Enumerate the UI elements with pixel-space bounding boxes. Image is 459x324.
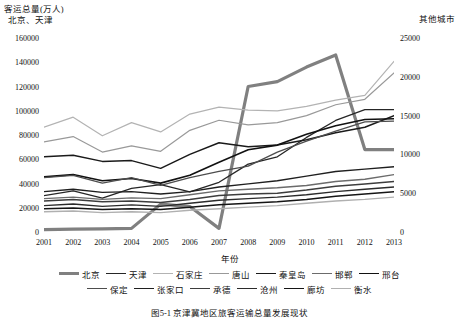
- y-tick-left: 80000: [0, 131, 39, 140]
- x-tick: 2010: [299, 238, 315, 247]
- legend-item-邯郸[interactable]: 邯郸: [312, 268, 353, 280]
- legend-item-承德[interactable]: 承德: [190, 283, 231, 295]
- legend-label: 承德: [213, 283, 231, 295]
- legend-label: 北京: [82, 268, 100, 280]
- x-tick: 2004: [124, 238, 140, 247]
- x-tick: 2003: [94, 238, 110, 247]
- series-line: [44, 73, 394, 152]
- legend-item-保定[interactable]: 保定: [87, 283, 128, 295]
- legend-label: 保定: [110, 283, 128, 295]
- series-line: [44, 110, 394, 199]
- legend-label: 唐山: [232, 268, 250, 280]
- y-tick-right: 10000: [400, 150, 420, 159]
- chart-legend: 北京天津石家庄唐山秦皇岛邯郸邢台保定张家口承德沧州廊坊衡水: [0, 266, 459, 296]
- legend-swatch-icon: [359, 273, 379, 274]
- x-tick: 2001: [36, 238, 52, 247]
- legend-item-廊坊[interactable]: 廊坊: [284, 283, 325, 295]
- y-tick-right: 5000: [400, 189, 416, 198]
- y-tick-left: 60000: [0, 155, 39, 164]
- figure-container: 客运总量(万人) 北京、天津 其他城市 02000040000600008000…: [0, 0, 459, 324]
- left-axis-title: 客运总量(万人) 北京、天津: [4, 4, 64, 25]
- legend-swatch-icon: [190, 288, 210, 289]
- legend-swatch-icon: [59, 272, 79, 275]
- series-line: [44, 116, 394, 169]
- legend-label: 邯郸: [335, 268, 353, 280]
- legend-swatch-icon: [256, 273, 276, 274]
- x-tick: 2007: [211, 238, 227, 247]
- legend-item-张家口[interactable]: 张家口: [134, 283, 184, 295]
- y-tick-left: 120000: [0, 82, 39, 91]
- line-chart-svg: [44, 38, 394, 232]
- x-axis-title: 年份: [0, 252, 459, 264]
- legend-swatch-icon: [331, 288, 351, 289]
- legend-item-石家庄[interactable]: 石家庄: [153, 268, 203, 280]
- legend-label: 张家口: [157, 283, 184, 295]
- figure-caption: 图5-1 京津冀地区旅客运输总量发展现状: [0, 306, 459, 318]
- legend-label: 邢台: [382, 268, 400, 280]
- legend-swatch-icon: [87, 288, 107, 289]
- legend-item-沧州[interactable]: 沧州: [237, 283, 278, 295]
- legend-label: 沧州: [260, 283, 278, 295]
- y-tick-right: 15000: [400, 111, 420, 120]
- legend-label: 石家庄: [176, 268, 203, 280]
- x-tick: 2006: [182, 238, 198, 247]
- y-tick-left: 40000: [0, 179, 39, 188]
- legend-item-秦皇岛[interactable]: 秦皇岛: [256, 268, 306, 280]
- legend-swatch-icon: [284, 288, 304, 289]
- y-tick-left: 160000: [0, 34, 39, 43]
- legend-label: 秦皇岛: [279, 268, 306, 280]
- x-tick: 2009: [269, 238, 285, 247]
- x-tick: 2008: [240, 238, 256, 247]
- x-tick: 2013: [386, 238, 402, 247]
- series-line: [44, 119, 394, 183]
- y-tick-right: 0: [400, 228, 404, 237]
- plot-area: [44, 38, 394, 232]
- y-tick-left: 140000: [0, 58, 39, 67]
- legend-item-天津[interactable]: 天津: [106, 268, 147, 280]
- series-line: [44, 121, 394, 185]
- legend-row: 保定张家口承德沧州廊坊衡水: [0, 281, 459, 296]
- legend-item-衡水[interactable]: 衡水: [331, 283, 372, 295]
- y-tick-left: 0: [0, 228, 39, 237]
- legend-item-邢台[interactable]: 邢台: [359, 268, 400, 280]
- legend-row: 北京天津石家庄唐山秦皇岛邯郸邢台: [0, 266, 459, 281]
- legend-label: 衡水: [354, 283, 372, 295]
- x-tick: 2002: [65, 238, 81, 247]
- right-axis-title: 其他城市: [419, 14, 455, 25]
- legend-label: 天津: [129, 268, 147, 280]
- y-tick-left: 20000: [0, 203, 39, 212]
- legend-item-唐山[interactable]: 唐山: [209, 268, 250, 280]
- y-tick-right: 20000: [400, 72, 420, 81]
- y-tick-right: 25000: [400, 34, 420, 43]
- y-tick-left: 100000: [0, 106, 39, 115]
- legend-swatch-icon: [153, 273, 173, 274]
- legend-swatch-icon: [209, 273, 229, 274]
- legend-swatch-icon: [106, 273, 126, 274]
- x-tick: 2012: [357, 238, 373, 247]
- legend-swatch-icon: [237, 288, 257, 289]
- legend-label: 廊坊: [307, 283, 325, 295]
- x-tick: 2011: [328, 238, 344, 247]
- legend-item-北京[interactable]: 北京: [59, 268, 100, 280]
- legend-swatch-icon: [134, 288, 154, 289]
- x-tick: 2005: [153, 238, 169, 247]
- legend-swatch-icon: [312, 273, 332, 274]
